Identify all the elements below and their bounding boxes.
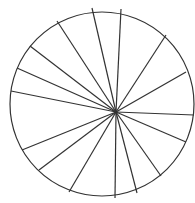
spoke-line-11 <box>39 112 116 170</box>
sector-diagram <box>0 0 195 203</box>
spoke-line-5 <box>116 112 194 115</box>
outer-circle <box>10 12 194 196</box>
spoke-line-13 <box>11 91 116 112</box>
spoke-line-8 <box>116 112 137 193</box>
spoke-line-10 <box>69 112 116 192</box>
spoke-line-4 <box>116 72 186 112</box>
spoke-line-9 <box>115 112 116 198</box>
spoke-line-3 <box>116 35 166 112</box>
spoke-line-2 <box>116 9 121 112</box>
spoke-line-12 <box>22 112 116 150</box>
